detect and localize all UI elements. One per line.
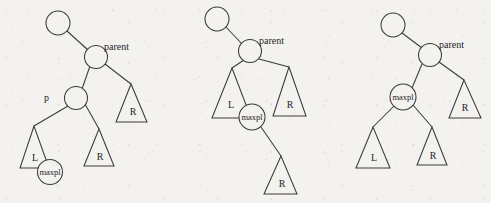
edge-parent-L-2 bbox=[232, 60, 244, 68]
subtree-label-R2: R bbox=[97, 151, 104, 162]
edge-grandparent-parent bbox=[67, 31, 88, 50]
node-p bbox=[65, 87, 88, 110]
node-grandparent-2 bbox=[205, 7, 229, 31]
edge-maxpl-R-3 bbox=[413, 105, 432, 127]
edge-maxpl-R-2 bbox=[261, 127, 281, 156]
subtree-label-L: L bbox=[32, 152, 38, 163]
subtree-label-R-3: R bbox=[462, 102, 469, 113]
subtree-label-R: R bbox=[130, 106, 137, 117]
node-label-maxpl-2: maxpl bbox=[241, 112, 263, 122]
panel-3-nodes: maxpl bbox=[381, 13, 442, 110]
label-parent-2: parent bbox=[259, 35, 284, 46]
edge-grandparent-parent-2 bbox=[226, 27, 242, 44]
edge-p-L bbox=[34, 106, 68, 126]
node-grandparent bbox=[46, 11, 70, 35]
panel-3-triangles: R L R bbox=[356, 80, 481, 168]
subtree-label-L-3: L bbox=[371, 152, 377, 163]
figure-canvas: R L R maxpl parent p L bbox=[0, 0, 491, 203]
node-label-maxpl: maxpl bbox=[39, 167, 61, 177]
subtree-label-R3-2: R bbox=[279, 178, 286, 189]
edge-parent-R bbox=[105, 64, 131, 84]
panel-1-diagram: R L R maxpl parent p L bbox=[0, 0, 491, 203]
edge-parent-p bbox=[82, 66, 90, 89]
label-parent: parent bbox=[104, 41, 129, 52]
edge-grandparent-parent-3 bbox=[402, 33, 422, 48]
label-p: p bbox=[44, 92, 49, 103]
node-grandparent-3 bbox=[381, 13, 405, 37]
subtree-label-L-2: L bbox=[228, 99, 234, 110]
edge-parent-R-2 bbox=[259, 59, 289, 67]
edge-maxpl-L-3 bbox=[373, 106, 394, 127]
subtree-label-R2-3: R bbox=[430, 150, 437, 161]
edge-parent-R-3 bbox=[439, 62, 464, 80]
edge-parent-maxpl-3 bbox=[412, 64, 422, 88]
node-label-maxpl-3: maxpl bbox=[392, 92, 414, 102]
label-parent-3: parent bbox=[439, 39, 464, 50]
panel-2-triangles: L R R bbox=[212, 67, 306, 194]
panel-2-side-labels: parent bbox=[259, 35, 284, 46]
edge-p-R bbox=[85, 104, 99, 129]
panel-3-side-labels: parent bbox=[439, 39, 464, 50]
subtree-label-R-2: R bbox=[287, 99, 294, 110]
